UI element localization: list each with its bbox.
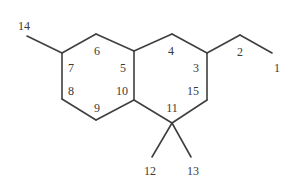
bond-7-14 — [27, 36, 62, 53]
bond-group — [27, 34, 272, 157]
bond-11-13 — [172, 123, 191, 157]
atom-number-8: 8 — [68, 85, 74, 97]
atom-number-4: 4 — [168, 45, 174, 57]
bond-4-5 — [134, 34, 172, 51]
atom-number-6: 6 — [94, 45, 100, 57]
atom-number-10: 10 — [116, 85, 128, 97]
bond-9-10 — [96, 100, 134, 120]
bond-8-9 — [62, 99, 96, 120]
atom-number-2: 2 — [237, 46, 243, 58]
atom-number-15: 15 — [187, 85, 199, 97]
atom-number-5: 5 — [120, 62, 126, 74]
bond-3-4 — [172, 34, 207, 53]
atom-number-7: 7 — [68, 62, 74, 74]
atom-number-9: 9 — [94, 102, 100, 114]
atom-number-11: 11 — [166, 102, 178, 114]
bond-2-3 — [207, 35, 240, 53]
bond-5-6 — [96, 34, 134, 51]
atom-number-3: 3 — [193, 62, 199, 74]
atom-number-14: 14 — [18, 20, 30, 32]
bond-1-2 — [240, 35, 272, 53]
bond-11-12 — [152, 123, 172, 157]
atom-number-13: 13 — [187, 165, 199, 177]
chemical-structure-figure: 123456789101112131415 — [0, 0, 295, 191]
bond-6-7 — [62, 34, 96, 53]
atom-number-1: 1 — [274, 62, 280, 74]
bond-skeleton — [0, 0, 295, 191]
atom-number-12: 12 — [144, 165, 156, 177]
